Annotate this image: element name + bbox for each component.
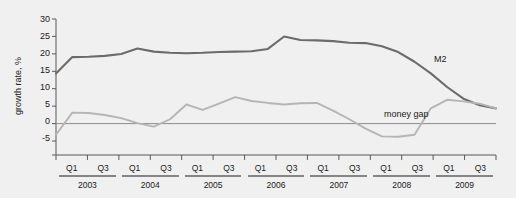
quarter-label: Q1 <box>66 163 78 173</box>
quarter-label: Q1 <box>192 163 204 173</box>
year-label: 2005 <box>204 180 223 190</box>
year-label: 2007 <box>329 180 348 190</box>
quarter-label: Q3 <box>160 163 172 173</box>
quarter-label: Q3 <box>349 163 361 173</box>
quarter-label: Q3 <box>412 163 424 173</box>
year-label: 2008 <box>392 180 411 190</box>
quarter-label: Q3 <box>286 163 298 173</box>
year-label: 2004 <box>141 180 160 190</box>
quarter-label: Q3 <box>475 163 487 173</box>
year-label: 2009 <box>455 180 474 190</box>
y-tick-label: 10 <box>40 82 50 92</box>
series-label-m2: M2 <box>434 54 447 64</box>
y-tick-label: 25 <box>40 31 50 41</box>
quarter-label: Q1 <box>317 163 329 173</box>
series-label-money-gap: money gap <box>384 109 429 119</box>
quarter-label: Q3 <box>97 163 109 173</box>
year-label: 2003 <box>78 180 97 190</box>
y-tick-label: 5 <box>45 99 50 109</box>
quarter-label: Q1 <box>443 163 455 173</box>
y-tick-label: 30 <box>40 14 50 24</box>
quarter-label: Q1 <box>380 163 392 173</box>
quarter-label: Q3 <box>223 163 235 173</box>
y-tick-label: 15 <box>40 65 50 75</box>
quarter-label: Q1 <box>255 163 267 173</box>
line-chart: growth rate, % 30 25 20 15 10 5 0 -5 <box>0 0 516 198</box>
chart-container: growth rate, % 30 25 20 15 10 5 0 -5 <box>0 0 516 198</box>
year-label: 2006 <box>267 180 286 190</box>
y-tick-label: 20 <box>40 48 50 58</box>
y-axis-label: growth rate, % <box>13 57 23 115</box>
y-tick-label: -5 <box>42 133 50 143</box>
y-tick-label: 0 <box>45 116 50 126</box>
quarter-label: Q1 <box>129 163 141 173</box>
